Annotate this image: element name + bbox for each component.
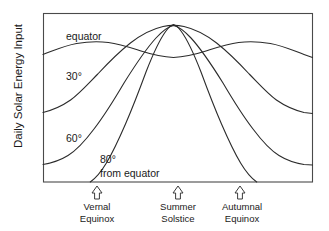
up-arrow-icon xyxy=(173,186,183,199)
curve-60-degrees xyxy=(43,26,313,166)
autumnal-equinox-label-line1: Autumnal xyxy=(222,201,262,212)
autumnal-equinox-marker: Autumnal Equinox xyxy=(222,186,262,224)
summer-solstice-label-line2: Solstice xyxy=(161,213,194,224)
curve-label-60-degrees: 60° xyxy=(66,132,82,144)
curve-equator xyxy=(43,42,313,58)
chart-canvas: Daily Solar Energy Input equator 30° 60°… xyxy=(0,0,329,231)
curve-label-30-degrees: 30° xyxy=(66,70,82,82)
curve-label-equator: equator xyxy=(66,30,102,42)
summer-solstice-marker: Summer Solstice xyxy=(160,186,196,224)
summer-solstice-label-line1: Summer xyxy=(160,201,196,212)
y-axis-title: Daily Solar Energy Input xyxy=(12,23,24,148)
autumnal-equinox-label-line2: Equinox xyxy=(225,213,260,224)
vernal-equinox-label-line1: Vernal xyxy=(84,201,111,212)
vernal-equinox-label-line2: Equinox xyxy=(80,213,115,224)
up-arrow-icon xyxy=(235,186,245,199)
curve-label-from-equator: from equator xyxy=(100,167,160,179)
solar-energy-chart: Daily Solar Energy Input equator 30° 60°… xyxy=(0,0,329,231)
up-arrow-icon xyxy=(92,186,102,199)
vernal-equinox-marker: Vernal Equinox xyxy=(80,186,115,224)
curve-label-80-degrees: 80° xyxy=(100,153,116,165)
